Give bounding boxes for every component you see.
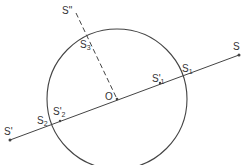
point-s2-prime [59, 120, 61, 122]
label-s: S [233, 41, 240, 52]
label-s-prime: S' [4, 126, 13, 137]
label-s1: S1 [182, 63, 193, 75]
main-line [10, 55, 239, 140]
point-s-prime [9, 139, 12, 142]
label-s3: S3 [80, 39, 91, 51]
circle [47, 29, 187, 165]
label-s-double-prime: S" [62, 5, 73, 16]
point-s [238, 54, 241, 57]
dashed-line [76, 13, 117, 99]
label-o: O [105, 91, 113, 102]
label-s1-prime: S'1 [152, 73, 165, 85]
point-o [116, 98, 119, 101]
label-s2-prime: S'2 [53, 106, 66, 118]
diagram-canvas: S S' S" O S1 S'1 S2 S'2 S3 [0, 0, 246, 165]
label-s2: S2 [37, 115, 48, 127]
